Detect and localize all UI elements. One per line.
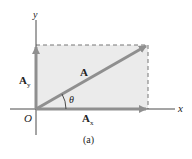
- figure-caption: (a): [83, 135, 94, 145]
- angle-theta-label: θ: [69, 95, 74, 105]
- x-axis-label: x: [178, 103, 183, 114]
- vector-ax-label: Ax: [82, 113, 93, 127]
- vector-ay-label: Ay: [19, 75, 30, 89]
- origin-label: O: [24, 113, 32, 124]
- y-axis-label: y: [33, 10, 37, 20]
- vector-a-label: A: [80, 67, 88, 78]
